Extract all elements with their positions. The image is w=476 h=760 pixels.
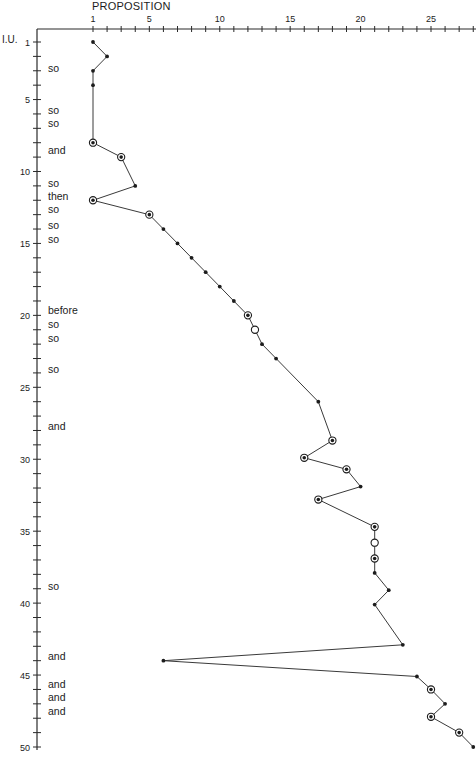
dot-point	[260, 342, 264, 346]
circled-point-dot	[373, 525, 377, 529]
connective-label: so	[48, 363, 59, 375]
circled-point-dot	[429, 688, 433, 692]
connective-label: and	[48, 144, 66, 156]
connective-label: and	[48, 691, 66, 703]
dot-point	[162, 659, 166, 663]
connective-label: so	[48, 117, 59, 129]
data-series	[93, 42, 473, 747]
connective-label: so	[48, 580, 59, 592]
dot-point	[401, 643, 405, 647]
circled-point-dot	[317, 498, 321, 502]
connective-label: so	[48, 219, 59, 231]
connective-label: before	[48, 304, 78, 316]
data-markers	[89, 40, 475, 749]
dot-point	[373, 571, 377, 575]
dot-point	[176, 242, 180, 246]
y-tick-label: 45	[20, 671, 30, 681]
line-chart: 151015202515101520253035404550 sososoand…	[0, 0, 476, 760]
dot-point	[471, 745, 475, 749]
y-tick-label: 25	[20, 383, 30, 393]
connective-label: then	[48, 190, 69, 202]
connective-label: and	[48, 420, 66, 432]
connective-label: so	[48, 177, 59, 189]
connective-label: and	[48, 678, 66, 690]
circled-point-dot	[429, 715, 433, 719]
dot-point	[91, 69, 95, 73]
y-tick-label: 10	[20, 167, 30, 177]
circled-point-dot	[345, 468, 349, 472]
x-tick-label: 5	[147, 14, 152, 24]
x-tick-label: 15	[285, 14, 295, 24]
dot-point	[91, 40, 95, 44]
dot-point	[316, 400, 320, 404]
dot-point	[190, 256, 194, 260]
open-circle-point	[371, 539, 378, 546]
circled-point-dot	[302, 456, 306, 460]
connective-label: so	[48, 203, 59, 215]
x-tick-label: 25	[426, 14, 436, 24]
dot-point	[218, 285, 222, 289]
connective-label: so	[48, 233, 59, 245]
y-tick-label: 20	[20, 311, 30, 321]
dot-point	[274, 357, 278, 361]
circled-point-dot	[91, 141, 95, 145]
connective-label: so	[48, 62, 59, 74]
connective-label: so	[48, 332, 59, 344]
dot-point	[105, 54, 109, 58]
dot-point	[91, 83, 95, 87]
dot-point	[443, 702, 447, 706]
x-tick-label: 20	[356, 14, 366, 24]
connective-label: so	[48, 104, 59, 116]
y-tick-label: 15	[20, 239, 30, 249]
x-tick-label: 1	[90, 14, 95, 24]
circled-point-dot	[246, 314, 250, 318]
y-tick-label: 40	[20, 599, 30, 609]
dot-point	[359, 485, 363, 489]
y-tick-label: 50	[20, 743, 30, 753]
y-tick-label: 30	[20, 455, 30, 465]
dot-point	[387, 588, 391, 592]
dot-point	[232, 299, 236, 303]
x-tick-label: 10	[215, 14, 225, 24]
connective-label: so	[48, 318, 59, 330]
circled-point-dot	[148, 213, 152, 217]
dot-point	[204, 270, 208, 274]
circled-point-dot	[457, 731, 461, 735]
axes: 151015202515101520253035404550	[20, 14, 476, 753]
circled-point-dot	[373, 557, 377, 561]
dot-point	[162, 227, 166, 231]
y-tick-label: 5	[25, 95, 30, 105]
data-line	[93, 42, 473, 747]
connective-label: and	[48, 705, 66, 717]
dot-point	[133, 184, 137, 188]
circled-point-dot	[91, 198, 95, 202]
y-tick-label: 35	[20, 527, 30, 537]
circled-point-dot	[331, 439, 335, 443]
circled-point-dot	[119, 155, 123, 159]
connective-annotations: sososoandsothensososobeforesososoandsoan…	[48, 62, 78, 717]
dot-point	[373, 603, 377, 607]
connective-label: and	[48, 650, 66, 662]
y-tick-label: 1	[25, 38, 30, 48]
dot-point	[415, 675, 419, 679]
open-circle-point	[251, 326, 258, 333]
